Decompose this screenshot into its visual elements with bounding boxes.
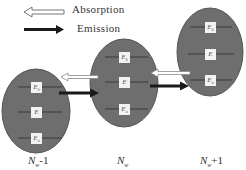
dot-label-right: Nw+1 <box>200 154 223 168</box>
legend-absorption-arrow-icon <box>24 7 64 17</box>
energy-level-e: E <box>205 49 216 60</box>
legend-absorption-label: Absorption <box>72 3 125 15</box>
legend-emission-arrow-icon <box>24 25 64 34</box>
energy-level-e: E <box>31 107 42 118</box>
energy-level-eb: Eb <box>119 52 130 63</box>
dot-label-left: Nw-1 <box>28 154 49 168</box>
energy-level-e: E <box>119 77 130 88</box>
energy-level-ea: Ea <box>31 133 42 144</box>
dot-label-middle: Nw <box>117 154 128 168</box>
energy-level-eb: Eb <box>205 22 216 33</box>
legend-emission-label: Emission <box>77 22 120 34</box>
energy-level-ea: Ea <box>205 75 216 86</box>
energy-level-ea: Ea <box>119 104 130 115</box>
energy-level-eb: Eb <box>31 82 42 93</box>
